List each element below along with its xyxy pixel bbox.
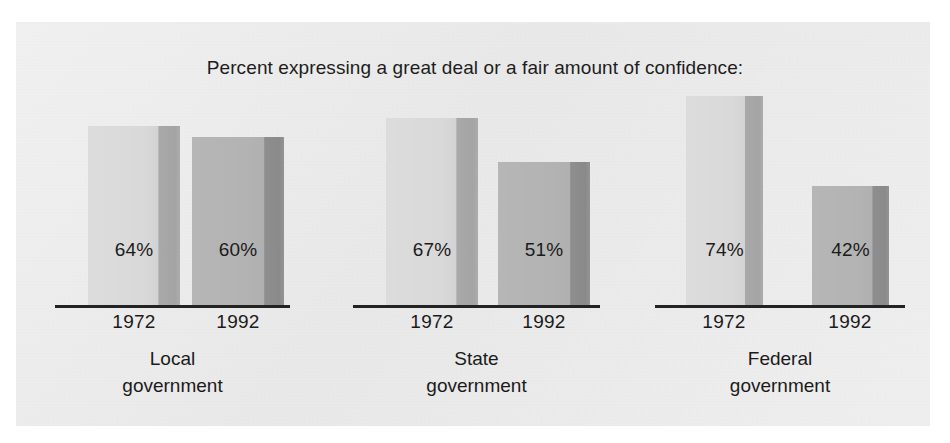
bar-value-federal-government-1992: 42% (812, 239, 889, 261)
bar-group-state-government: 67% 51% 1972 1992 State government (353, 0, 600, 443)
year-label-federal-government-1972: 1972 (668, 311, 780, 333)
group-label-federal-government-line2: government (655, 372, 905, 399)
group-label-local-government: Local government (55, 345, 290, 399)
bar-value-local-government-1992: 60% (192, 239, 284, 261)
group-label-state-government: State government (353, 345, 600, 399)
bar-value-federal-government-1972: 74% (686, 239, 763, 261)
bar-state-government-1992: 51% (498, 162, 590, 305)
bar-group-federal-government: 74% 42% 1972 1992 Federal government (655, 0, 905, 443)
bar-local-government-1972: 64% (88, 126, 180, 305)
axis-line-state-government (353, 305, 600, 308)
group-label-state-government-line2: government (353, 372, 600, 399)
year-label-local-government-1972: 1972 (78, 311, 190, 333)
year-label-state-government-1992: 1992 (488, 311, 600, 333)
bar-value-local-government-1972: 64% (88, 239, 180, 261)
bar-value-state-government-1992: 51% (498, 239, 590, 261)
group-label-federal-government: Federal government (655, 345, 905, 399)
bar-value-state-government-1972: 67% (386, 239, 478, 261)
bar-federal-government-1992: 42% (812, 186, 889, 305)
group-label-local-government-line2: government (55, 372, 290, 399)
group-label-state-government-line1: State (353, 345, 600, 372)
bar-state-government-1972: 67% (386, 118, 478, 305)
axis-line-local-government (55, 305, 290, 308)
group-label-federal-government-line1: Federal (655, 345, 905, 372)
group-label-local-government-line1: Local (55, 345, 290, 372)
year-label-state-government-1972: 1972 (376, 311, 488, 333)
year-label-local-government-1992: 1992 (182, 311, 294, 333)
bar-federal-government-1972: 74% (686, 96, 763, 305)
chart-screenshot: Percent expressing a great deal or a fai… (0, 0, 950, 443)
bar-group-local-government: 64% 60% 1972 1992 Local government (55, 0, 290, 443)
year-label-federal-government-1992: 1992 (794, 311, 906, 333)
bar-local-government-1992: 60% (192, 137, 284, 305)
axis-line-federal-government (655, 305, 905, 308)
